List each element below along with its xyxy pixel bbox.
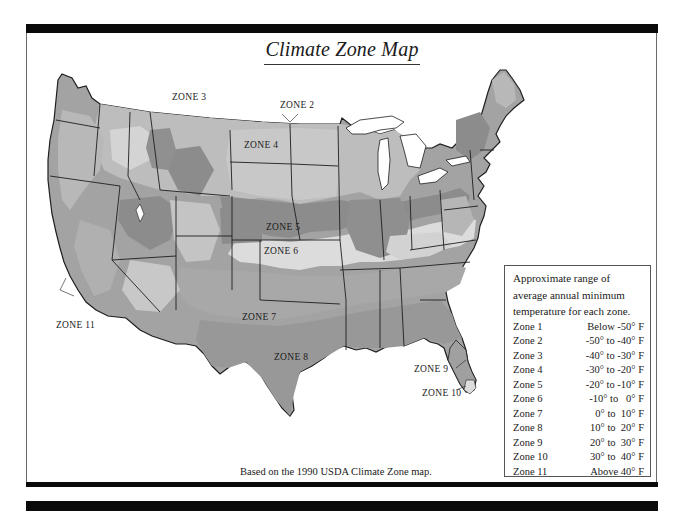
legend-row: Zone 3-40° to -30° F	[513, 349, 644, 364]
legend-range: Above 40° F	[590, 465, 644, 480]
zone-10-label: ZONE 10	[422, 388, 461, 398]
legend-range: -30° to -20° F	[586, 363, 644, 378]
legend-row: Zone 4-30° to -20° F	[513, 363, 644, 378]
zone-3-label: ZONE 3	[172, 92, 206, 102]
legend-zone: Zone 9	[513, 436, 542, 451]
legend-row: Zone 920° to 30° F	[513, 436, 644, 451]
legend-zone: Zone 2	[513, 334, 542, 349]
colorado-zone5	[220, 206, 262, 244]
legend-zone: Zone 1	[513, 320, 542, 335]
legend-range: -40° to -30° F	[586, 349, 644, 364]
zone-9-label: ZONE 9	[414, 364, 448, 374]
legend-zone: Zone 3	[513, 349, 542, 364]
legend-range: 20° to 30° F	[590, 436, 644, 451]
legend-range: 30° to 40° F	[590, 450, 644, 465]
legend-intro-line: Approximate range of	[513, 270, 644, 287]
legend-range: -20° to -10° F	[586, 378, 644, 393]
zone-8-label: ZONE 8	[274, 352, 308, 362]
legend-row: Zone 11Above 40° F	[513, 465, 644, 480]
legend-row: Zone 5-20° to -10° F	[513, 378, 644, 393]
legend-zone: Zone 11	[513, 465, 547, 480]
zone-2-label: ZONE 2	[280, 100, 314, 110]
legend-zone: Zone 10	[513, 450, 548, 465]
legend-row: Zone 2-50° to -40° F	[513, 334, 644, 349]
legend-row: Zone 810° to 20° F	[513, 421, 644, 436]
legend-zone: Zone 4	[513, 363, 542, 378]
legend-range: Below -50° F	[587, 320, 644, 335]
temperature-legend: Approximate range of average annual mini…	[504, 265, 651, 477]
legend-row: Zone 1Below -50° F	[513, 320, 644, 335]
legend-intro: Approximate range of average annual mini…	[513, 270, 644, 320]
zone-5-label: ZONE 5	[266, 222, 300, 232]
legend-intro-line: temperature for each zone.	[513, 303, 644, 320]
legend-range: 10° to 20° F	[590, 421, 644, 436]
legend-row: Zone 6-10° to 0° F	[513, 392, 644, 407]
legend-range: -50° to -40° F	[586, 334, 644, 349]
legend-zone: Zone 8	[513, 421, 542, 436]
zone-6-label: ZONE 6	[264, 246, 298, 256]
zone-4-label: ZONE 4	[244, 140, 278, 150]
legend-row: Zone 1030° to 40° F	[513, 450, 644, 465]
legend-row: Zone 70° to 10° F	[513, 407, 644, 422]
source-caption: Based on the 1990 USDA Climate Zone map.	[240, 466, 432, 477]
legend-zone: Zone 6	[513, 392, 542, 407]
legend-intro-line: average annual minimum	[513, 287, 644, 304]
legend-range: 0° to 10° F	[595, 407, 644, 422]
legend-zone: Zone 7	[513, 407, 542, 422]
legend-range: -10° to 0° F	[589, 392, 644, 407]
zone-11-label: ZONE 11	[56, 320, 95, 330]
legend-zone: Zone 5	[513, 378, 542, 393]
zone-7-label: ZONE 7	[242, 312, 276, 322]
